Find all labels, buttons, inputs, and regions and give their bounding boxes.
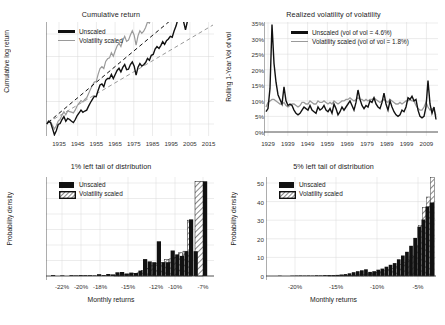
legend-label: Volatility scaled (vol of vol = 1.8%) xyxy=(312,38,409,45)
y-tick: 15% xyxy=(242,82,264,89)
x-tick: -20% xyxy=(288,283,302,290)
y-tick: 20 xyxy=(240,235,264,242)
legend-item-unscaled: Unscaled xyxy=(58,27,123,36)
x-tick: -15% xyxy=(329,283,343,290)
x-tick: 2015 xyxy=(202,140,216,147)
panel-tail-5pct: 5% left tail of distribution Probability… xyxy=(222,160,445,325)
y-tick: 30% xyxy=(242,35,264,42)
legend-cumulative-return: Unscaled Volatility scaled xyxy=(58,27,123,45)
x-tick: 1939 xyxy=(281,140,295,147)
x-tick: -22% xyxy=(55,283,69,290)
legend-item-volatility-scaled: Volatility scaled (vol of vol = 1.8%) xyxy=(291,37,409,46)
x-axis-label: Monthly returns xyxy=(222,296,445,303)
panel-title: Cumulative return xyxy=(0,10,222,19)
x-tick: 1959 xyxy=(321,140,335,147)
legend-label: Unscaled xyxy=(79,28,106,35)
x-tick: -10% xyxy=(168,283,182,290)
x-tick: -20% xyxy=(74,283,88,290)
legend-label: Volatility scaled xyxy=(79,190,123,197)
x-tick: 1979 xyxy=(360,140,374,147)
panel-cumulative-return: Cumulative return Cumulative log return xyxy=(0,0,222,160)
panel-realized-vol-of-vol: Realized volatility of volatility Rollin… xyxy=(222,0,445,160)
bars-unscaled xyxy=(278,203,434,277)
line-solid-black-icon xyxy=(58,27,75,36)
x-tick: -5% xyxy=(413,283,424,290)
line-solid-black-icon xyxy=(291,28,308,37)
line-solid-grey-icon xyxy=(58,36,75,45)
legend-tail-1pct: Unscaled Volatility scaled xyxy=(58,180,123,198)
y-tick: 50 xyxy=(240,180,264,187)
y-tick: 10 xyxy=(240,254,264,261)
panel-title: 5% left tail of distribution xyxy=(222,162,445,171)
swatch-solid-black-icon xyxy=(58,180,75,189)
legend-label: Unscaled xyxy=(299,181,326,188)
x-tick: -7% xyxy=(198,283,209,290)
legend-label: Unscaled (vol of vol = 4.6%) xyxy=(312,29,392,36)
legend-item-unscaled: Unscaled (vol of vol = 4.6%) xyxy=(291,28,409,37)
y-tick: 0% xyxy=(242,129,264,136)
x-tick: -10% xyxy=(370,283,384,290)
y-tick: 30 xyxy=(240,217,264,224)
y-axis-label: Rolling 1-Year Vol of vol xyxy=(225,32,232,102)
y-axis-label: Probability density xyxy=(6,192,13,246)
line-solid-grey-icon xyxy=(291,37,308,46)
legend-item-unscaled: Unscaled xyxy=(58,180,123,189)
y-tick: 10% xyxy=(242,97,264,104)
legend-item-volatility-scaled: Volatility scaled xyxy=(58,36,123,45)
x-tick: 1999 xyxy=(400,140,414,147)
panel-title: 1% left tail of distribution xyxy=(0,162,222,171)
legend-realized-vol-of-vol: Unscaled (vol of vol = 4.6%) Volatility … xyxy=(291,28,409,46)
x-tick: 1985 xyxy=(146,140,160,147)
x-tick: -15% xyxy=(121,283,135,290)
panel-title: Realized volatility of volatility xyxy=(222,10,445,19)
y-tick: 35% xyxy=(242,20,264,27)
legend-label: Volatility scaled xyxy=(79,37,123,44)
x-tick: 1945 xyxy=(71,140,85,147)
y-tick: 25% xyxy=(242,51,264,58)
x-tick: 1949 xyxy=(301,140,315,147)
x-tick: 1975 xyxy=(127,140,141,147)
x-tick: 1989 xyxy=(380,140,394,147)
legend-item-unscaled: Unscaled xyxy=(278,180,343,189)
swatch-hatched-icon xyxy=(278,189,295,198)
legend-tail-5pct: Unscaled Volatility scaled xyxy=(278,180,343,198)
y-tick: 40 xyxy=(240,198,264,205)
x-tick: 1929 xyxy=(261,140,275,147)
y-tick: 5% xyxy=(242,113,264,120)
x-tick: 2009 xyxy=(420,140,434,147)
y-tick: 0 xyxy=(240,273,264,280)
y-tick: 20% xyxy=(242,66,264,73)
x-tick: 1995 xyxy=(164,140,178,147)
x-tick: 1965 xyxy=(108,140,122,147)
legend-label: Volatility scaled xyxy=(299,190,343,197)
legend-item-volatility-scaled: Volatility scaled xyxy=(278,189,343,198)
x-tick: 1969 xyxy=(340,140,354,147)
x-axis-label: Monthly returns xyxy=(0,296,222,303)
panel-tail-1pct: 1% left tail of distribution Probability… xyxy=(0,160,222,325)
x-tick: 1955 xyxy=(90,140,104,147)
legend-label: Unscaled xyxy=(79,181,106,188)
y-axis-label: Probability density xyxy=(230,192,237,246)
series-volatility-scaled xyxy=(266,98,436,116)
swatch-hatched-icon xyxy=(58,189,75,198)
figure-grid: Cumulative return Cumulative log return xyxy=(0,0,445,325)
x-tick: 1935 xyxy=(52,140,66,147)
x-tick: -12% xyxy=(149,283,163,290)
y-axis-label: Cumulative log return xyxy=(3,30,10,93)
x-tick: 2005 xyxy=(183,140,197,147)
swatch-solid-black-icon xyxy=(278,180,295,189)
x-tick: -18% xyxy=(93,283,107,290)
legend-item-volatility-scaled: Volatility scaled xyxy=(58,189,123,198)
